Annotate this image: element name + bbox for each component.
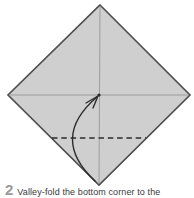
step-caption-text: Valley-fold the bottom corner to the: [17, 183, 160, 198]
step-caption-row: 2 Valley-fold the bottom corner to the: [5, 183, 160, 198]
origami-instruction-figure: { "step": { "number": "2", "caption": "V…: [0, 0, 194, 198]
step-number: 2: [5, 183, 13, 197]
origami-diagram: [0, 0, 194, 198]
center-target-dot: [97, 93, 100, 96]
